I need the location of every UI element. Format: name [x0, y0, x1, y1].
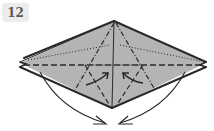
origami-diagram	[0, 0, 214, 131]
